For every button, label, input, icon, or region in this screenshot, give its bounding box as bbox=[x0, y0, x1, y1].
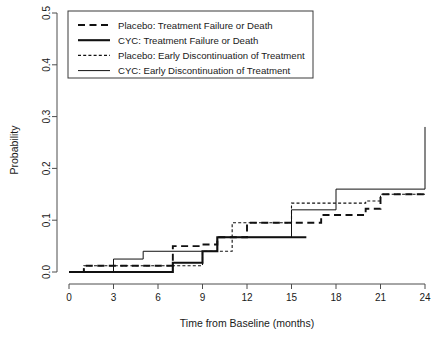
data-series-group bbox=[69, 127, 425, 272]
x-tick-label: 24 bbox=[419, 292, 431, 303]
chart-legend: Placebo: Treatment Failure or DeathCYC: … bbox=[68, 11, 313, 78]
x-tick-label: 18 bbox=[330, 292, 342, 303]
series-line-3 bbox=[69, 127, 425, 272]
chart-canvas: 0.00.10.20.30.40.5 03691215182124 Probab… bbox=[0, 0, 443, 339]
y-tick-label: 0.2 bbox=[41, 161, 52, 175]
legend-label-0: Placebo: Treatment Failure or Death bbox=[118, 20, 273, 31]
series-line-1 bbox=[69, 237, 306, 272]
x-tick-label: 12 bbox=[241, 292, 253, 303]
legend-label-2: Placebo: Early Discontinuation of Treatm… bbox=[118, 50, 305, 61]
y-tick-label: 0.4 bbox=[41, 57, 52, 71]
x-tick-label: 0 bbox=[66, 292, 72, 303]
y-tick-label: 0.1 bbox=[41, 213, 52, 227]
y-axis: 0.00.10.20.30.40.5 bbox=[41, 6, 57, 279]
x-tick-label: 3 bbox=[111, 292, 117, 303]
x-tick-label: 9 bbox=[200, 292, 206, 303]
series-line-0 bbox=[69, 194, 425, 272]
series-line-2 bbox=[69, 194, 425, 272]
legend-label-3: CYC: Early Discontinuation of Treatment bbox=[118, 65, 291, 76]
y-tick-label: 0.3 bbox=[41, 109, 52, 123]
x-tick-label: 21 bbox=[375, 292, 387, 303]
x-tick-label: 6 bbox=[155, 292, 161, 303]
x-axis: 03691215182124 bbox=[66, 284, 431, 303]
x-axis-title: Time from Baseline (months) bbox=[180, 317, 314, 329]
legend-label-1: CYC: Treatment Failure or Death bbox=[118, 35, 258, 46]
y-tick-label: 0.5 bbox=[41, 6, 52, 20]
y-axis-title: Probability bbox=[8, 125, 20, 175]
y-tick-label: 0.0 bbox=[41, 265, 52, 279]
x-tick-label: 15 bbox=[286, 292, 298, 303]
kaplan-meier-chart-figure: 0.00.10.20.30.40.5 03691215182124 Probab… bbox=[0, 0, 443, 339]
